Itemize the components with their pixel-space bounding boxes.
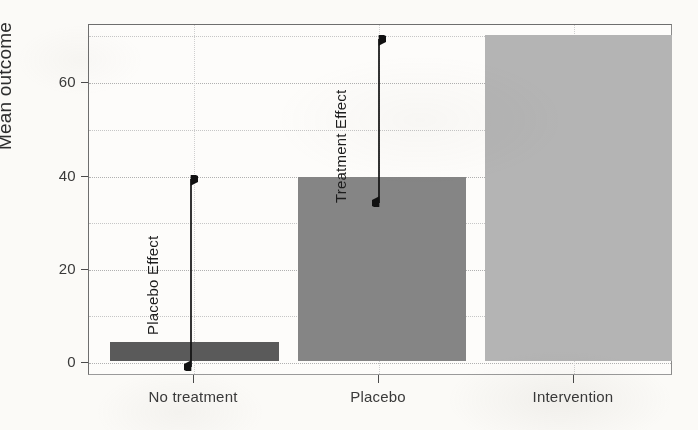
ytick-mark-0: [81, 362, 88, 363]
gridline-0: [89, 363, 671, 364]
bar-fill-intervention: [485, 35, 672, 361]
bar-intervention[interactable]: [485, 35, 672, 361]
xtick-mark-placebo: [378, 375, 379, 383]
bar-chart-figure: Placebo Effect Treatment Effect 60 40 20…: [0, 0, 698, 430]
ytick-mark-20: [81, 269, 88, 270]
xtick-label-intervention: Intervention: [503, 388, 643, 405]
placebo-effect-arrow: [184, 175, 198, 371]
treatment-effect-label: Treatment Effect: [332, 90, 349, 203]
ytick-mark-60: [81, 82, 88, 83]
xtick-mark-intervention: [573, 375, 574, 383]
plot-area: Placebo Effect Treatment Effect: [88, 24, 672, 375]
placebo-effect-label: Placebo Effect: [144, 236, 161, 335]
y-axis-title: Mean outcome: [0, 22, 16, 150]
ytick-label-60: 60: [44, 73, 76, 90]
ytick-label-0: 0: [44, 353, 76, 370]
xtick-mark-no-treatment: [193, 375, 194, 383]
xtick-label-placebo: Placebo: [308, 388, 448, 405]
xtick-label-no-treatment: No treatment: [123, 388, 263, 405]
ytick-label-20: 20: [44, 260, 76, 277]
treatment-effect-arrow: [372, 35, 386, 207]
ytick-mark-40: [81, 176, 88, 177]
ytick-label-40: 40: [44, 167, 76, 184]
